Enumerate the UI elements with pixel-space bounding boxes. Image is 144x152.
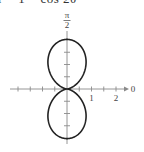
axis-arrow-icon — [124, 87, 129, 92]
polar-axis-label: 0 — [131, 84, 136, 94]
pi-label: π — [65, 10, 70, 20]
polar-graph: π 2 1 2 0 — [0, 0, 144, 152]
tick-label-1: 1 — [89, 93, 94, 103]
tick-label-2: 2 — [114, 93, 119, 103]
two-label: 2 — [65, 20, 70, 30]
